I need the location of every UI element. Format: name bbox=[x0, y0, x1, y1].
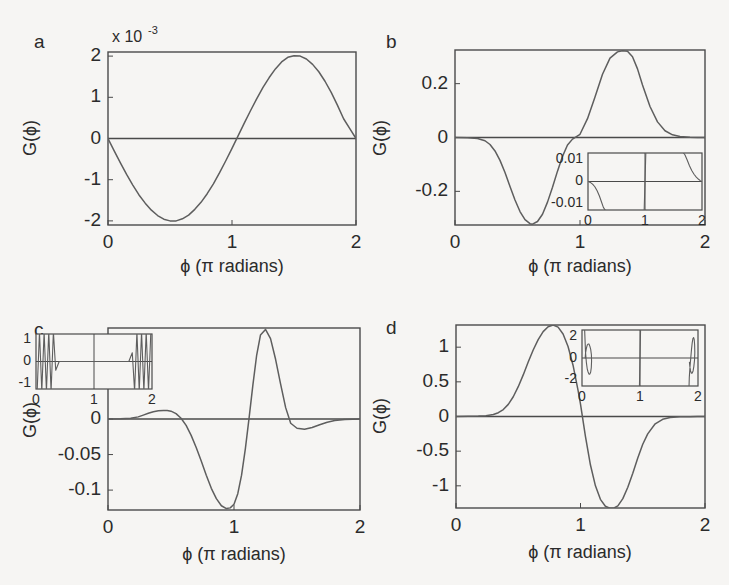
inset-y-tick-d-1: 0 bbox=[569, 349, 577, 365]
x-tick-d-1: 1 bbox=[575, 514, 586, 535]
x-axis-label-b: ϕ (π radians) bbox=[528, 256, 632, 276]
panel-c: c-0.1-0.0500.050.1012ϕ (π radians)G(ϕ)-1… bbox=[0, 292, 365, 585]
plot-c: c-0.1-0.0500.050.1012ϕ (π radians)G(ϕ)-1… bbox=[0, 292, 365, 585]
x-tick-b-1: 1 bbox=[575, 231, 586, 252]
x-tick-a-2: 2 bbox=[351, 231, 362, 252]
x-tick-d-0: 0 bbox=[451, 514, 462, 535]
x-axis-label-c: ϕ (π radians) bbox=[182, 544, 286, 564]
y-tick-c-2: 0 bbox=[90, 407, 101, 428]
inset-c: -101012 bbox=[19, 330, 157, 407]
y-tick-c-1: -0.05 bbox=[58, 443, 101, 464]
inset-x-tick-b-2: 2 bbox=[698, 212, 706, 228]
y-axis-label-a: G(ϕ) bbox=[20, 120, 40, 156]
svg-text:x 10: x 10 bbox=[112, 28, 142, 45]
y-tick-d-1: -0.5 bbox=[416, 439, 449, 460]
y-tick-a-0: -2 bbox=[84, 209, 101, 230]
y-tick-c-0: -0.1 bbox=[68, 478, 101, 499]
plot-b: b-0.200.2012ϕ (π radians)G(ϕ)-0.0100.010… bbox=[364, 0, 729, 292]
plot-d: d-1-0.500.51012ϕ (π radians)G(ϕ)-202012 bbox=[364, 292, 729, 585]
panel-letter-a: a bbox=[34, 31, 45, 52]
x-tick-c-1: 1 bbox=[229, 516, 240, 537]
panel-letter-b: b bbox=[386, 31, 397, 52]
inset-b: -0.0100.01012 bbox=[551, 150, 706, 228]
y-tick-d-3: 0.5 bbox=[423, 370, 449, 391]
plot-a: ax 10-3-2-1012012ϕ (π radians)G(ϕ) bbox=[0, 0, 365, 292]
y-axis-exponent-a: x 10-3 bbox=[112, 24, 158, 45]
y-tick-a-1: -1 bbox=[84, 168, 101, 189]
y-axis-label-b: G(ϕ) bbox=[370, 120, 390, 156]
y-tick-a-2: 0 bbox=[90, 127, 101, 148]
inset-x-tick-b-1: 1 bbox=[641, 212, 649, 228]
figure-four-panel-plots: ax 10-3-2-1012012ϕ (π radians)G(ϕ) b-0.2… bbox=[0, 0, 729, 585]
y-tick-a-3: 1 bbox=[90, 85, 101, 106]
panel-d: d-1-0.500.51012ϕ (π radians)G(ϕ)-202012 bbox=[364, 292, 729, 585]
inset-d: -202012 bbox=[565, 327, 703, 404]
inset-y-tick-b-0: -0.01 bbox=[551, 194, 583, 210]
inset-x-tick-b-0: 0 bbox=[584, 212, 592, 228]
inset-x-tick-c-0: 0 bbox=[32, 391, 40, 407]
y-tick-d-4: 1 bbox=[438, 335, 449, 356]
y-tick-b-0: -0.2 bbox=[415, 179, 448, 200]
y-tick-d-0: -1 bbox=[432, 474, 449, 495]
inset-y-tick-b-2: 0.01 bbox=[556, 150, 583, 166]
inset-x-tick-c-1: 1 bbox=[90, 391, 98, 407]
x-tick-a-0: 0 bbox=[103, 231, 114, 252]
inset-x-tick-c-2: 2 bbox=[148, 391, 156, 407]
inset-y-tick-d-2: 2 bbox=[569, 327, 577, 343]
inset-y-tick-c-2: 1 bbox=[23, 330, 31, 346]
y-tick-b-2: 0.2 bbox=[422, 72, 448, 93]
panel-a: ax 10-3-2-1012012ϕ (π radians)G(ϕ) bbox=[0, 0, 365, 292]
inset-x-tick-d-0: 0 bbox=[578, 388, 586, 404]
x-tick-b-2: 2 bbox=[700, 231, 711, 252]
panel-b: b-0.200.2012ϕ (π radians)G(ϕ)-0.0100.010… bbox=[364, 0, 729, 292]
x-tick-a-1: 1 bbox=[227, 231, 238, 252]
svg-text:-3: -3 bbox=[148, 24, 158, 36]
inset-y-tick-d-0: -2 bbox=[565, 370, 578, 386]
y-tick-a-4: 2 bbox=[90, 44, 101, 65]
panel-letter-d: d bbox=[386, 317, 397, 338]
inset-y-tick-c-0: -1 bbox=[19, 374, 32, 390]
x-tick-b-0: 0 bbox=[450, 231, 461, 252]
y-tick-d-2: 0 bbox=[438, 405, 449, 426]
inset-y-tick-b-1: 0 bbox=[575, 172, 583, 188]
y-axis-label-d: G(ϕ) bbox=[370, 398, 390, 434]
x-axis-label-a: ϕ (π radians) bbox=[180, 256, 284, 276]
y-tick-b-1: 0 bbox=[437, 126, 448, 147]
inset-y-tick-c-1: 0 bbox=[23, 352, 31, 368]
x-axis-label-d: ϕ (π radians) bbox=[528, 542, 632, 562]
inset-x-tick-d-2: 2 bbox=[694, 388, 702, 404]
inset-x-tick-d-1: 1 bbox=[636, 388, 644, 404]
x-tick-c-0: 0 bbox=[103, 516, 114, 537]
x-tick-d-2: 2 bbox=[700, 514, 711, 535]
